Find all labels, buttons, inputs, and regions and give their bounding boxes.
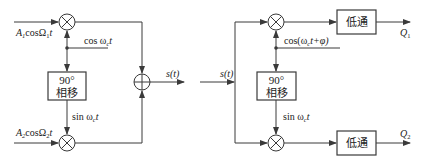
phase-shifter-label-text: 相移 <box>56 87 78 99</box>
input-bottom-label: A2cosΩ2t <box>15 127 52 139</box>
carrier-label: cos ωct <box>84 35 112 47</box>
modulator-output-label: s(t) <box>166 68 180 80</box>
quadrature-modulation-diagram: A1cosΩ1t cos ωct 90° 相移 sin ωct A2cosΩ2t <box>0 0 424 165</box>
output-bottom-label: Q2 <box>400 128 410 140</box>
output-top-label: Q1 <box>400 27 410 39</box>
multiplier-top-right <box>268 14 284 30</box>
junction-dot-right <box>274 46 278 50</box>
phase-shifter-right-degree: 90° <box>269 74 284 86</box>
local-carrier-label: cos(ωct+φ) <box>284 35 329 47</box>
multiplier-bottom-right <box>268 135 284 151</box>
junction-dot <box>65 46 69 50</box>
multiplier-bottom-left <box>59 135 75 151</box>
lowpass-top-label: 低通 <box>346 16 368 28</box>
local-shifted-carrier-label: sin ωct <box>283 111 310 123</box>
lowpass-bottom-label: 低通 <box>346 137 368 149</box>
phase-shifter-label-degree: 90° <box>59 74 74 86</box>
input-top-label: A1cosΩ1t <box>15 27 52 39</box>
demodulator-section: s(t) cos(ωct+φ) 90° 相移 sin ωct <box>200 10 410 155</box>
multiplier-top-left <box>59 14 75 30</box>
modulator-section: A1cosΩ1t cos ωct 90° 相移 sin ωct A2cosΩ2t <box>14 14 184 151</box>
phase-shifter-right-text: 相移 <box>266 87 288 99</box>
shifted-carrier-label: sin ωct <box>72 111 99 123</box>
adder-node <box>134 74 150 90</box>
demodulator-input-label: s(t) <box>220 68 234 80</box>
